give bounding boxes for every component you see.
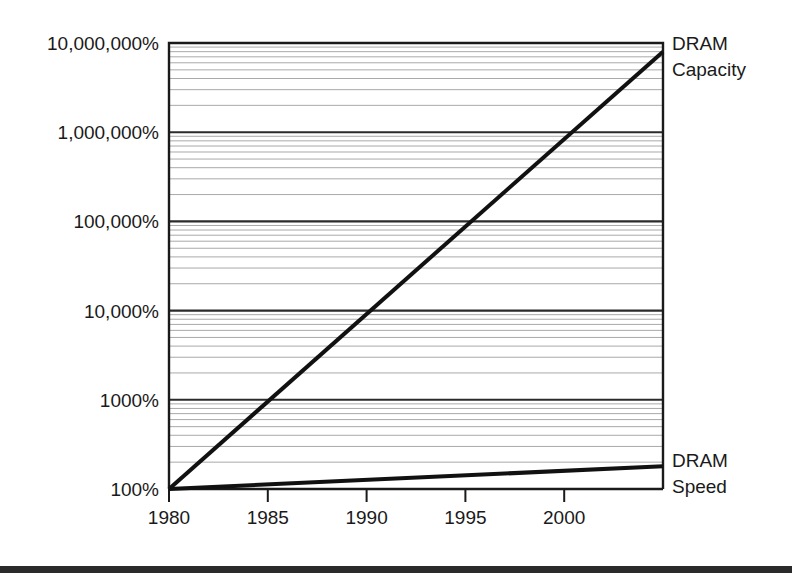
series-label-dram-capacity-line2: Capacity [672, 59, 746, 80]
dram-capacity-vs-speed-chart: 100%1000%10,000%100,000%1,000,000%10,000… [0, 0, 792, 573]
series-label-dram-speed-line2: Speed [672, 476, 727, 497]
x-tick-label: 1980 [148, 507, 190, 528]
series-label-dram-capacity-line1: DRAM [672, 33, 728, 54]
x-tick-label: 1995 [444, 507, 486, 528]
y-tick-label: 1000% [100, 390, 159, 411]
x-tick-label: 1985 [247, 507, 289, 528]
y-tick-label: 100% [110, 479, 159, 500]
series-label-dram-speed-line1: DRAM [672, 450, 728, 471]
x-tick-label: 1990 [345, 507, 387, 528]
y-tick-label: 100,000% [73, 211, 159, 232]
y-tick-label: 10,000% [84, 301, 159, 322]
chart-figure: 100%1000%10,000%100,000%1,000,000%10,000… [0, 0, 792, 573]
y-tick-label: 1,000,000% [58, 122, 160, 143]
page-edge-band [0, 566, 792, 573]
x-tick-label: 2000 [543, 507, 585, 528]
y-tick-label: 10,000,000% [47, 33, 159, 54]
